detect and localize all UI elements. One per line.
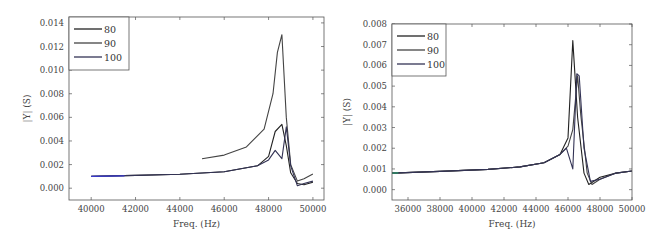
legend-label-90: 90 xyxy=(104,38,116,49)
x-tick-label: 38000 xyxy=(426,204,453,214)
y-tick-label: 0.003 xyxy=(363,123,387,133)
x-tick-label: 42000 xyxy=(122,204,149,214)
legend-label-90: 90 xyxy=(427,45,439,56)
chart-right: 3600038000400004200044000460004800050000… xyxy=(342,19,646,229)
legend-label-100: 100 xyxy=(427,59,445,70)
legend: 8090100 xyxy=(392,24,446,76)
y-tick-label: 0.000 xyxy=(40,183,64,193)
legend-label-80: 80 xyxy=(104,24,116,35)
x-tick-label: 46000 xyxy=(211,204,238,214)
x-tick-label: 46000 xyxy=(554,204,581,214)
y-axis-title: |Y| (S) xyxy=(22,94,33,122)
x-tick-label: 36000 xyxy=(394,204,421,214)
y-tick-label: 0.002 xyxy=(40,160,64,170)
x-tick-label: 40000 xyxy=(78,204,105,214)
y-tick-label: 0.008 xyxy=(363,19,387,29)
x-axis-title: Freq. (Hz) xyxy=(173,219,220,229)
y-tick-label: 0.008 xyxy=(40,89,64,99)
y-axis-title: |Y| (S) xyxy=(342,98,353,126)
x-axis-title: Freq. (Hz) xyxy=(489,219,536,229)
y-tick-label: 0.014 xyxy=(40,18,64,28)
x-tick-label: 50000 xyxy=(618,204,645,214)
y-tick-label: 0.000 xyxy=(363,185,387,195)
y-tick-label: 0.004 xyxy=(363,102,387,112)
legend-label-80: 80 xyxy=(427,31,439,42)
series-line-90 xyxy=(202,35,313,181)
x-tick-label: 48000 xyxy=(255,204,282,214)
y-tick-label: 0.010 xyxy=(40,65,64,75)
x-tick-label: 40000 xyxy=(458,204,485,214)
legend-label-100: 100 xyxy=(104,52,122,63)
y-tick-label: 0.001 xyxy=(363,164,387,174)
y-tick-label: 0.006 xyxy=(363,60,387,70)
figure: 4000042000440004600048000500000.0000.002… xyxy=(0,0,663,246)
y-tick-label: 0.004 xyxy=(40,136,64,146)
x-tick-label: 48000 xyxy=(586,204,613,214)
x-tick-label: 42000 xyxy=(490,204,517,214)
y-tick-label: 0.007 xyxy=(363,40,387,50)
chart-left: 4000042000440004600048000500000.0000.002… xyxy=(22,17,326,229)
legend: 8090100 xyxy=(69,17,129,70)
y-tick-label: 0.005 xyxy=(363,81,387,91)
y-tick-label: 0.012 xyxy=(40,42,64,52)
series-line-90 xyxy=(392,76,632,185)
x-tick-label: 50000 xyxy=(299,204,326,214)
y-tick-label: 0.006 xyxy=(40,112,64,122)
x-tick-label: 44000 xyxy=(522,204,549,214)
series-line-100 xyxy=(392,74,632,182)
y-tick-label: 0.002 xyxy=(363,143,387,153)
x-tick-label: 44000 xyxy=(166,204,193,214)
series-line-100 xyxy=(91,127,313,186)
